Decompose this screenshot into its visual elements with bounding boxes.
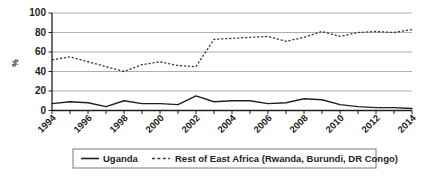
y-tick-label-60: 60 — [35, 46, 47, 57]
y-tick-label-100: 100 — [29, 7, 46, 18]
line-chart: 020406080100 199419961998200020022004200… — [0, 0, 425, 176]
legend-label-rest-of-east-africa: Rest of East Africa (Rwanda, Burundi, DR… — [175, 153, 398, 164]
legend-label-uganda: Uganda — [103, 153, 139, 164]
y-tick-label-40: 40 — [35, 66, 47, 77]
y-tick-label-20: 20 — [35, 85, 47, 96]
y-tick-label-80: 80 — [35, 27, 47, 38]
y-tick-label-0: 0 — [40, 105, 46, 116]
y-axis-label: % — [10, 59, 20, 67]
chart-legend: Uganda Rest of East Africa (Rwanda, Buru… — [73, 149, 398, 168]
chart-container: 020406080100 199419961998200020022004200… — [0, 0, 425, 176]
